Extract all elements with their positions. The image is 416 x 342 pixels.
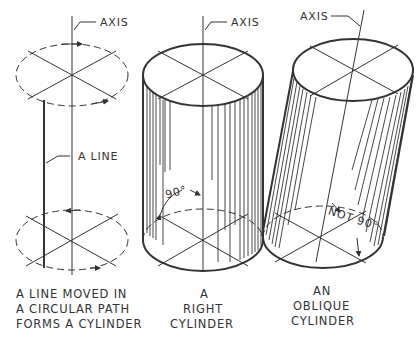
axis-label-2: AXIS <box>231 16 260 29</box>
caption-3-line-3: CYLINDER <box>291 314 355 328</box>
axis-leader <box>74 22 96 30</box>
panel-generation <box>16 16 128 275</box>
axis-label-3: AXIS <box>300 10 329 23</box>
caption-3-line-2: OBLIQUE <box>293 299 350 313</box>
angle-label-90: 90° <box>164 183 189 201</box>
caption-3-line-1: AN <box>313 284 331 298</box>
caption-2-line-1: A <box>200 287 209 301</box>
caption-2-line-2: RIGHT <box>183 302 223 316</box>
caption-1-line-1: A LINE MOVED IN <box>16 287 127 301</box>
caption-2-line-3: CYLINDER <box>170 317 234 331</box>
panel-right-cylinder <box>143 16 263 271</box>
panel-oblique-cylinder <box>262 10 413 268</box>
line-label: A LINE <box>78 150 118 163</box>
axis-label-1: AXIS <box>100 16 129 29</box>
caption-1-line-3: FORMS A CYLINDER <box>16 317 142 331</box>
caption-1-line-2: A CIRCULAR PATH <box>16 302 130 316</box>
cylinder-diagram: AXIS A LINE A LINE MOVED IN A CIRCULAR P… <box>0 0 416 342</box>
